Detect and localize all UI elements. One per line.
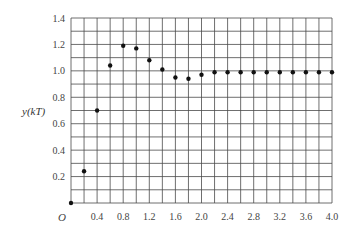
data-point bbox=[225, 70, 229, 74]
data-point bbox=[134, 46, 138, 50]
data-point bbox=[238, 70, 242, 74]
data-point bbox=[278, 70, 282, 74]
data-point bbox=[265, 70, 269, 74]
data-point bbox=[121, 44, 125, 48]
x-tick-label: 2.8 bbox=[247, 211, 260, 222]
y-tick-label: 0.2 bbox=[53, 171, 66, 182]
data-point bbox=[212, 70, 216, 74]
y-axis-ticks: 0.20.40.60.81.01.21.4 bbox=[53, 13, 66, 183]
x-tick-label: 4.0 bbox=[326, 211, 339, 222]
data-point bbox=[69, 201, 73, 205]
y-tick-label: 1.4 bbox=[53, 13, 66, 24]
y-tick-label: 0.4 bbox=[53, 145, 66, 156]
data-point bbox=[252, 70, 256, 74]
x-tick-label: 0.8 bbox=[117, 211, 130, 222]
x-axis-ticks: 0.40.81.21.62.02.42.83.23.64.0 bbox=[91, 211, 338, 222]
data-point bbox=[330, 70, 334, 74]
data-point bbox=[317, 70, 321, 74]
data-point bbox=[173, 75, 177, 79]
data-point bbox=[160, 67, 164, 71]
data-point bbox=[147, 58, 151, 62]
origin-label: O bbox=[58, 211, 66, 223]
chart-grid bbox=[71, 18, 332, 203]
y-tick-label: 1.2 bbox=[53, 39, 66, 50]
x-tick-label: 3.2 bbox=[274, 211, 287, 222]
data-point bbox=[304, 70, 308, 74]
data-point bbox=[291, 70, 295, 74]
x-tick-label: 2.4 bbox=[221, 211, 234, 222]
y-tick-label: 0.6 bbox=[53, 118, 66, 129]
x-tick-label: 0.4 bbox=[91, 211, 104, 222]
scatter-chart: 0.20.40.60.81.01.21.4 0.40.81.21.62.02.4… bbox=[0, 0, 362, 234]
data-point bbox=[82, 169, 86, 173]
y-tick-label: 1.0 bbox=[53, 65, 66, 76]
data-point bbox=[108, 63, 112, 67]
x-tick-label: 3.6 bbox=[300, 211, 313, 222]
y-tick-label: 0.8 bbox=[53, 92, 66, 103]
y-axis-label: y(kT) bbox=[21, 105, 46, 118]
data-point bbox=[186, 77, 190, 81]
x-tick-label: 1.2 bbox=[143, 211, 156, 222]
data-point bbox=[199, 73, 203, 77]
data-point bbox=[95, 108, 99, 112]
x-tick-label: 1.6 bbox=[169, 211, 182, 222]
x-tick-label: 2.0 bbox=[195, 211, 208, 222]
